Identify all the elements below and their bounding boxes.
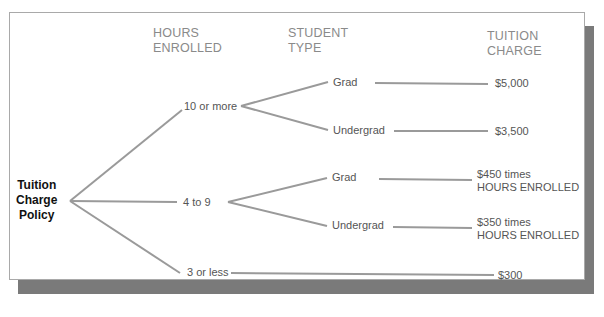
header-student-type: STUDENT TYPE [288, 26, 348, 56]
header-line: CHARGE [487, 44, 542, 59]
hours-node-3-or-less: 3 or less [187, 266, 229, 279]
root-line: Policy [16, 208, 57, 223]
student-node-undergrad-10: Undergrad [333, 124, 385, 137]
header-line: TYPE [288, 41, 348, 56]
root-line: Charge [16, 193, 57, 208]
header-line: STUDENT [288, 26, 348, 41]
charge-grad-4-9: $450 times HOURS ENROLLED [477, 168, 579, 194]
charge-line: $450 times [477, 168, 579, 181]
charge-line: HOURS ENROLLED [477, 181, 579, 194]
header-line: TUITION [487, 29, 542, 44]
hours-node-10-or-more: 10 or more [184, 100, 237, 113]
charge-grad-10: $5,000 [495, 77, 529, 90]
header-line: ENROLLED [153, 41, 222, 56]
student-node-grad-4-9: Grad [332, 171, 356, 184]
charge-line: $350 times [477, 216, 579, 229]
charge-undergrad-10: $3,500 [495, 125, 529, 138]
student-node-grad-10: Grad [333, 76, 357, 89]
header-tuition-charge: TUITION CHARGE [487, 29, 542, 59]
charge-line: HOURS ENROLLED [477, 229, 579, 242]
student-node-undergrad-4-9: Undergrad [332, 219, 384, 232]
charge-3-or-less: $300 [498, 269, 522, 282]
root-node-tuition-charge-policy: Tuition Charge Policy [16, 178, 57, 223]
hours-node-4-to-9: 4 to 9 [183, 196, 211, 209]
charge-undergrad-4-9: $350 times HOURS ENROLLED [477, 216, 579, 242]
header-hours-enrolled: HOURS ENROLLED [153, 26, 222, 56]
root-line: Tuition [16, 178, 57, 193]
header-line: HOURS [153, 26, 222, 41]
